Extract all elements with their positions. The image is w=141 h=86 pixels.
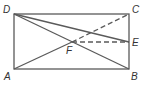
label-a: A bbox=[3, 71, 11, 82]
geometry-figure: D C E F A B bbox=[0, 0, 141, 86]
label-d: D bbox=[3, 4, 10, 15]
segment-af bbox=[14, 42, 72, 69]
label-e: E bbox=[132, 37, 139, 48]
label-b: B bbox=[131, 71, 138, 82]
segment-fc-dashed bbox=[72, 14, 129, 42]
label-c: C bbox=[132, 4, 140, 15]
label-f: F bbox=[66, 45, 73, 56]
segment-de bbox=[14, 14, 129, 42]
